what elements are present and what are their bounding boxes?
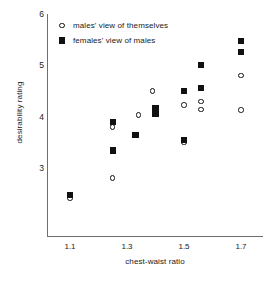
data-point-circle <box>198 107 203 112</box>
data-point-square <box>238 49 244 55</box>
legend-item-females: females' view of males <box>56 33 168 48</box>
x-tick-label: 1.3 <box>112 243 142 251</box>
open-circle-marker-icon <box>56 23 68 28</box>
y-axis-tick-labels: 3456 <box>26 0 44 283</box>
legend-item-label: males' view of themselves <box>73 21 168 30</box>
x-tick-label: 1.5 <box>169 243 199 251</box>
data-point-square <box>110 147 116 153</box>
y-axis-line <box>47 14 48 236</box>
data-point-square <box>181 137 187 143</box>
data-point-circle <box>136 112 141 117</box>
data-point-square <box>152 110 158 116</box>
y-tick-label: 6 <box>28 10 44 19</box>
y-tick-label: 3 <box>28 164 44 173</box>
data-point-square <box>198 62 204 68</box>
data-point-square <box>181 88 187 94</box>
x-axis-line <box>47 236 263 237</box>
data-point-circle <box>181 102 186 107</box>
data-point-circle <box>238 73 243 78</box>
legend-item-males: males' view of themselves <box>56 18 168 33</box>
data-point-circle <box>150 88 155 93</box>
data-point-circle <box>198 99 203 104</box>
data-point-circle <box>238 107 243 112</box>
filled-square-marker-icon <box>56 37 68 43</box>
legend-item-label: females' view of males <box>73 36 155 45</box>
legend: males' view of themselves females' view … <box>56 18 168 48</box>
data-point-square <box>198 85 204 91</box>
data-point-square <box>67 192 73 198</box>
data-point-square <box>238 38 244 44</box>
y-tick-label: 5 <box>28 61 44 70</box>
data-point-square <box>132 132 138 138</box>
x-axis-title: chest-waist ratio <box>47 257 263 266</box>
scatter-plot: 3456 chest-waist ratio desirability rati… <box>0 0 271 283</box>
data-point-circle <box>110 175 115 180</box>
x-tick-label: 1.1 <box>55 243 85 251</box>
y-axis-title: desirability rating <box>15 58 24 168</box>
y-tick-label: 4 <box>28 113 44 122</box>
x-tick-label: 1.7 <box>226 243 256 251</box>
data-point-square <box>110 119 116 125</box>
